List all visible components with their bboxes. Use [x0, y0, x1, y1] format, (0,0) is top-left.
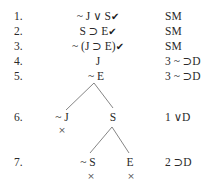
closed-branch-icon: ×	[87, 170, 95, 183]
justification-7: 2 ⊃D	[165, 156, 192, 169]
closed-branch-icon: ×	[127, 170, 135, 183]
branch-e: E	[126, 156, 133, 169]
justification-6: 1 ∨D	[165, 111, 190, 124]
justification-1: SM	[165, 10, 182, 23]
branch-not-s: ~ S	[80, 156, 96, 169]
branch-not-j: ~ J	[55, 111, 69, 124]
justification-4: 3 ~ ⊃D	[165, 55, 201, 68]
justification-3: SM	[165, 40, 182, 53]
branch-s: S	[110, 111, 116, 124]
justification-5: 3 ~ ⊃D	[165, 70, 201, 83]
closed-branch-icon: ×	[58, 124, 66, 137]
justification-2: SM	[165, 25, 182, 38]
